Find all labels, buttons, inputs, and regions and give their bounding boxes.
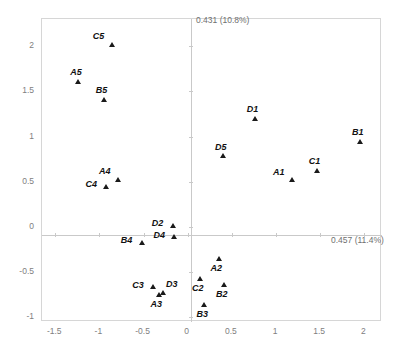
y-axis-title: 0.431 (10.8%)	[196, 15, 249, 25]
point-label: D5	[215, 142, 227, 152]
triangle-marker-icon	[220, 153, 226, 158]
x-tick-label: -0.5	[135, 326, 150, 336]
point-label: D1	[247, 104, 259, 114]
x-tick	[232, 233, 233, 237]
point-label: C1	[309, 156, 321, 166]
y-tick	[189, 272, 193, 273]
point-label: B2	[216, 289, 228, 299]
y-tick	[189, 317, 193, 318]
x-tick-label: 0	[184, 326, 189, 336]
x-tick-label: 2	[361, 326, 366, 336]
triangle-marker-icon	[101, 97, 107, 102]
vertical-zero-axis	[191, 19, 192, 322]
triangle-marker-icon	[357, 139, 363, 144]
triangle-marker-icon	[170, 223, 176, 228]
y-tick-label: 1	[8, 131, 34, 141]
point-label: C5	[93, 31, 105, 41]
triangle-marker-icon	[289, 177, 295, 182]
point-label: C2	[192, 283, 204, 293]
y-tick-label: -0.5	[8, 266, 34, 276]
x-tick	[276, 233, 277, 237]
point-label: A2	[211, 263, 223, 273]
y-tick-label: 0	[8, 221, 34, 231]
point-label: B5	[96, 85, 108, 95]
triangle-marker-icon	[150, 284, 156, 289]
y-tick	[189, 91, 193, 92]
point-label: C3	[132, 280, 144, 290]
y-tick	[189, 137, 193, 138]
y-tick-label: -1	[8, 311, 34, 321]
point-label: B4	[121, 235, 133, 245]
x-axis-title: 0.457 (11.4%)	[331, 235, 384, 245]
x-tick	[188, 233, 189, 237]
point-label: A5	[70, 67, 82, 77]
x-tick	[320, 233, 321, 237]
point-label: D2	[152, 218, 164, 228]
y-tick-label: 2	[8, 40, 34, 50]
y-tick	[189, 182, 193, 183]
triangle-marker-icon	[171, 234, 177, 239]
point-label: B1	[352, 127, 364, 137]
point-label: A3	[151, 299, 163, 309]
triangle-marker-icon	[115, 177, 121, 182]
x-tick-label: 0.5	[225, 326, 237, 336]
plot-area: C5A5B5D1B1D5C1A1A4C4D2D4B4A2C2B2C3D3A3B3	[41, 18, 381, 321]
triangle-marker-icon	[201, 302, 207, 307]
triangle-marker-icon	[103, 184, 109, 189]
triangle-marker-icon	[109, 42, 115, 47]
x-tick-label: -1.5	[47, 326, 62, 336]
y-tick-label: 0.5	[8, 176, 34, 186]
y-tick	[189, 46, 193, 47]
scatter-plot-figure: C5A5B5D1B1D5C1A1A4C4D2D4B4A2C2B2C3D3A3B3…	[0, 0, 406, 362]
y-tick-label: 1.5	[8, 85, 34, 95]
triangle-marker-icon	[252, 116, 258, 121]
x-tick-label: 1	[273, 326, 278, 336]
triangle-marker-icon	[221, 282, 227, 287]
triangle-marker-icon	[314, 168, 320, 173]
x-tick-label: 1.5	[313, 326, 325, 336]
x-tick	[144, 233, 145, 237]
triangle-marker-icon	[156, 292, 162, 297]
point-label: A4	[99, 166, 111, 176]
triangle-marker-icon	[139, 240, 145, 245]
point-label: B3	[196, 309, 208, 319]
triangle-marker-icon	[216, 256, 222, 261]
triangle-marker-icon	[197, 276, 203, 281]
point-label: D3	[166, 279, 178, 289]
x-tick-label: -1	[95, 326, 103, 336]
point-label: C4	[85, 179, 97, 189]
point-label: D4	[153, 230, 165, 240]
x-tick	[55, 233, 56, 237]
x-tick	[99, 233, 100, 237]
point-label: A1	[273, 167, 285, 177]
y-tick	[189, 227, 193, 228]
triangle-marker-icon	[75, 79, 81, 84]
